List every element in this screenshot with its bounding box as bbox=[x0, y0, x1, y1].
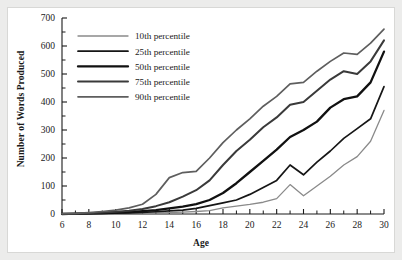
y-tick-label: 300 bbox=[41, 125, 56, 135]
x-tick-label: 6 bbox=[60, 220, 65, 230]
x-tick-label: 16 bbox=[191, 220, 201, 230]
series-line bbox=[62, 87, 384, 214]
legend-label: 90th percentile bbox=[135, 92, 190, 102]
x-tick-label: 26 bbox=[326, 220, 336, 230]
x-tick-label: 24 bbox=[299, 220, 309, 230]
legend-label: 10th percentile bbox=[135, 31, 190, 41]
legend-label: 75th percentile bbox=[135, 77, 190, 87]
data-series-group bbox=[62, 29, 384, 214]
y-tick-label: 500 bbox=[41, 69, 56, 79]
x-tick-label: 10 bbox=[111, 220, 121, 230]
x-tick-label: 12 bbox=[138, 220, 148, 230]
y-tick-label: 400 bbox=[41, 97, 56, 107]
y-tick-label: 100 bbox=[41, 181, 56, 191]
series-line bbox=[62, 110, 384, 214]
legend-label: 25th percentile bbox=[135, 47, 190, 57]
x-tick-label: 30 bbox=[379, 220, 389, 230]
y-tick-label: 0 bbox=[50, 209, 55, 219]
x-tick-label: 18 bbox=[218, 220, 228, 230]
y-tick-label: 200 bbox=[41, 153, 56, 163]
x-tick-label: 28 bbox=[352, 220, 362, 230]
chart-figure: 0100200300400500600700681012141618202224… bbox=[0, 0, 402, 260]
chart-legend: 10th percentile25th percentile50th perce… bbox=[78, 31, 190, 102]
y-tick-label: 600 bbox=[41, 41, 56, 51]
series-line bbox=[62, 29, 384, 214]
x-tick-label: 8 bbox=[86, 220, 91, 230]
x-tick-label: 14 bbox=[165, 220, 175, 230]
x-tick-label: 22 bbox=[272, 220, 282, 230]
x-axis-title: Age bbox=[0, 238, 402, 248]
x-tick-label: 20 bbox=[245, 220, 255, 230]
y-axis-title: Number of Words Produced bbox=[16, 44, 26, 174]
legend-label: 50th percentile bbox=[135, 62, 190, 72]
line-chart-plot: 0100200300400500600700681012141618202224… bbox=[0, 0, 402, 260]
y-tick-label: 700 bbox=[41, 13, 56, 23]
